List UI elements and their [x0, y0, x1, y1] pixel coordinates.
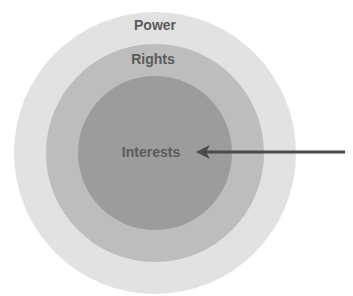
interests-label: Interests	[122, 144, 180, 160]
power-label: Power	[134, 17, 176, 33]
rights-label: Rights	[131, 51, 175, 67]
diagram-canvas: Power Rights Interests	[0, 0, 353, 296]
